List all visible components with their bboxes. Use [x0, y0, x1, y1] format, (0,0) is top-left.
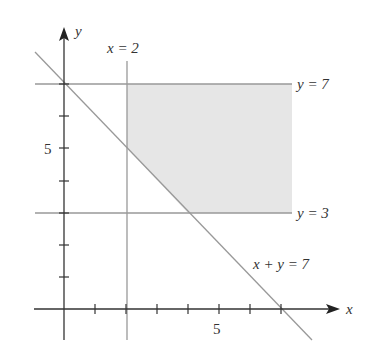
label-x-plus-y-7: x + y = 7 [252, 256, 311, 272]
chart-canvas: y x 5 5 x = 2 y = 7 y = 3 x + y = 7 [0, 0, 366, 351]
x-axis-label: x [345, 301, 353, 317]
y-axis-label: y [73, 23, 82, 39]
label-y-3: y = 3 [295, 205, 329, 221]
label-x-2: x = 2 [106, 40, 139, 56]
label-y-7: y = 7 [295, 76, 330, 92]
shaded-region [127, 84, 292, 213]
tick-label-y5: 5 [44, 141, 52, 157]
tick-label-x5: 5 [213, 321, 221, 337]
